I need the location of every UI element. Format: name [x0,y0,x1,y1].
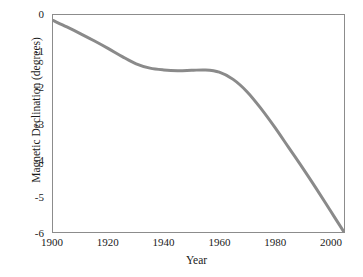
x-tick-label: 1960 [208,236,230,249]
x-axis-title-text: Year [186,254,207,266]
series-line-path [53,20,344,232]
x-axis-title: Year [0,254,363,267]
x-axis-tick-labels: 190019201940196019802000 [0,236,363,252]
x-tick-label: 1980 [264,236,286,249]
magnetic-declination-chart: 0-1-2-3-4-5-6 Magnetic Declination (degr… [0,0,363,277]
y-axis-title: Magnetic Declination (degrees) [30,10,42,210]
x-tick-label: 2000 [320,236,342,249]
x-tick-label: 1900 [41,236,63,249]
declination-line-series [53,15,344,232]
x-tick-label: 1920 [97,236,119,249]
x-tick-label: 1940 [153,236,175,249]
plot-area [52,14,345,233]
